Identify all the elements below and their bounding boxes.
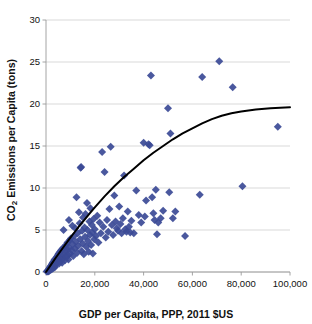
data-points	[43, 57, 282, 275]
data-point	[101, 168, 109, 176]
data-point	[60, 226, 68, 234]
y-tick-label: 25	[14, 56, 40, 67]
data-point	[181, 232, 189, 240]
data-point	[229, 83, 237, 91]
plot-area	[0, 0, 312, 324]
scatter-chart: CO2 Emissions per Capita (tons) GDP per …	[0, 0, 312, 324]
data-point	[107, 143, 115, 151]
data-point	[196, 191, 204, 199]
data-point	[98, 148, 106, 156]
data-point	[165, 188, 173, 196]
y-tick-label: 15	[14, 140, 40, 151]
data-point	[164, 104, 172, 112]
data-point	[147, 71, 155, 79]
y-tick-label: 30	[14, 14, 40, 25]
x-axis-title: GDP per Capita, PPP, 2011 $US	[0, 308, 312, 320]
data-point	[153, 230, 161, 238]
data-point	[110, 192, 118, 200]
y-tick-label: 5	[14, 224, 40, 235]
y-tick-label: 20	[14, 98, 40, 109]
data-point	[169, 214, 177, 222]
data-point	[149, 209, 157, 217]
data-point	[77, 163, 85, 171]
data-point	[105, 205, 113, 213]
data-point	[124, 208, 132, 216]
y-tick-label: 0	[14, 266, 40, 277]
data-point	[152, 186, 160, 194]
data-point	[115, 202, 123, 210]
y-tick-label: 10	[14, 182, 40, 193]
data-point	[159, 207, 167, 215]
data-point	[166, 129, 174, 137]
data-point	[171, 208, 179, 216]
x-tick-label: 100,000	[260, 278, 312, 289]
data-point	[274, 123, 282, 131]
data-point	[73, 193, 81, 201]
data-point	[198, 73, 206, 81]
data-point	[238, 182, 246, 190]
data-point	[215, 57, 223, 65]
data-point	[135, 211, 143, 219]
data-point	[103, 216, 111, 224]
